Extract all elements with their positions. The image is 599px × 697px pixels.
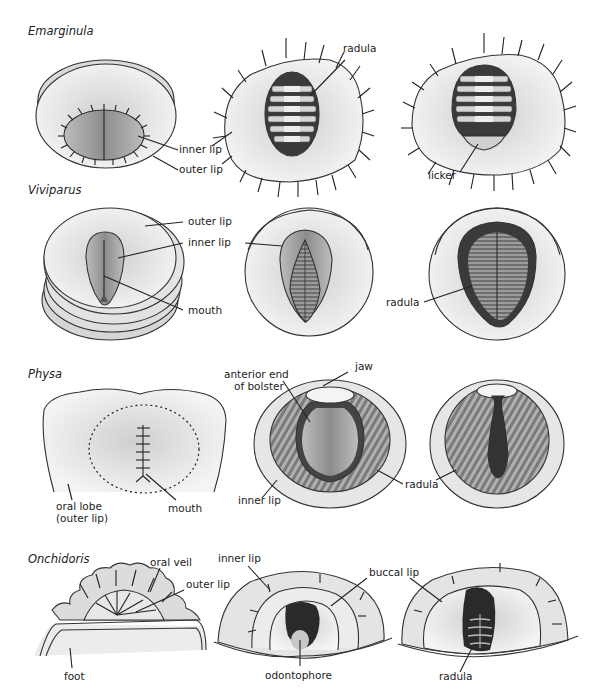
viviparus-panel-1: outer lip inner lip mouth — [42, 208, 232, 340]
mollusc-mouth-diagram: Emarginula — [0, 0, 599, 697]
label-buccal-lip: buccal lip — [369, 566, 419, 578]
emarginula-panel-3: licker — [401, 33, 576, 191]
taxon-title: Physa — [28, 367, 62, 381]
onchidoris-panel-2: inner lip buccal lip odontophore — [214, 552, 419, 681]
emarginula-panel-2: radula — [212, 38, 376, 197]
onchidoris-panel-1: oral veil outer lip foot — [34, 556, 230, 682]
label-anterior-end: anterior end — [224, 368, 289, 380]
row-physa: Physa mouth oral lobe (outer lip) — [28, 360, 564, 524]
label-odontophore: odontophore — [265, 669, 332, 681]
row-viviparus: Viviparus outer lip inner lip mouth — [28, 183, 565, 340]
label-licker: licker — [428, 169, 457, 181]
onchidoris-panel-3: radula — [398, 563, 578, 682]
taxon-title: Viviparus — [28, 183, 81, 197]
physa-panel-3: radula — [405, 380, 564, 508]
label-oral-lobe: oral lobe — [56, 500, 102, 512]
label-foot: foot — [64, 670, 85, 682]
label-inner-lip: inner lip — [188, 236, 231, 248]
label-of-bolster: of bolster — [234, 380, 285, 392]
physa-panel-2: jaw anterior end of bolster inner lip — [224, 360, 406, 508]
row-emarginula: Emarginula — [28, 24, 576, 197]
physa-panel-1: mouth oral lobe (outer lip) — [43, 389, 226, 524]
label-outer-lip: outer lip — [188, 215, 232, 227]
taxon-title: Onchidoris — [28, 552, 89, 566]
label-mouth: mouth — [188, 304, 222, 316]
label-outer-lip: outer lip — [179, 163, 223, 175]
label-inner-lip: inner lip — [238, 494, 281, 506]
label-outer-lip: outer lip — [186, 578, 230, 590]
label-radula: radula — [343, 42, 376, 54]
label-radula: radula — [439, 670, 472, 682]
label-radula: radula — [405, 478, 438, 490]
label-inner-lip: inner lip — [218, 552, 261, 564]
label-outer-lip-paren: (outer lip) — [56, 512, 108, 524]
label-radula: radula — [386, 296, 419, 308]
row-onchidoris: Onchidoris oral veil outer lip foot — [28, 552, 578, 682]
viviparus-panel-3: radula — [386, 208, 565, 340]
viviparus-panel-2 — [245, 208, 373, 336]
label-oral-veil: oral veil — [150, 556, 192, 568]
label-jaw: jaw — [354, 360, 373, 372]
label-inner-lip: inner lip — [179, 143, 222, 155]
label-mouth: mouth — [168, 502, 202, 514]
taxon-title: Emarginula — [28, 24, 94, 38]
emarginula-panel-1: inner lip outer lip — [36, 60, 223, 175]
